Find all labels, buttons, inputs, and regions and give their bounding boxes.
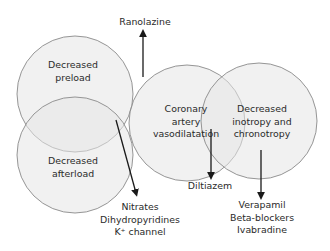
label-line: Coronary [153,103,219,116]
label-line: Decreased [48,59,98,72]
label-line: Decreased [48,155,98,168]
label-line: K⁺ channel [100,226,180,239]
label-decreased-afterload: Decreased afterload [48,155,98,180]
label-line: Ivabradine [230,224,294,237]
drug-label-verapamil-group: Verapamil Beta-blockers Ivabradine [230,199,294,237]
label-line: afterload [48,168,98,181]
label-line: Diltiazem [188,180,232,193]
label-line: Decreased [232,103,291,116]
label-decreased-inotropy: Decreased inotropy and chronotropy [232,103,291,141]
label-line: Nitrates [100,201,180,214]
label-line: inotropy and [232,116,291,129]
label-decreased-preload: Decreased preload [48,59,98,84]
drug-label-ranolazine: Ranolazine [119,16,170,29]
label-line: artery [153,116,219,129]
label-line: preload [48,72,98,85]
label-line: chronotropy [232,128,291,141]
drug-label-diltiazem: Diltiazem [188,180,232,193]
label-line: vasodilatation [153,128,219,141]
label-coronary-vasodilatation: Coronary artery vasodilatation [153,103,219,141]
drug-label-nitrates-group: Nitrates Dihydropyridines K⁺ channel [100,201,180,239]
label-line: Dihydropyridines [100,214,180,227]
label-line: Ranolazine [119,16,170,29]
label-line: Beta-blockers [230,212,294,225]
label-line: Verapamil [230,199,294,212]
